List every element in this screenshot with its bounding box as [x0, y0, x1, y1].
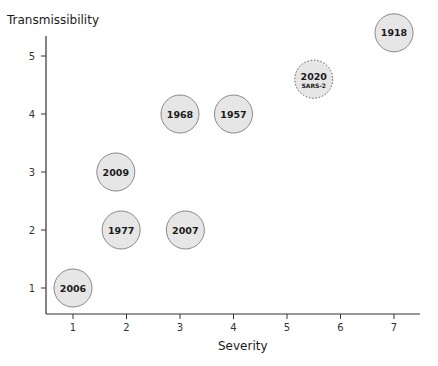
- bubble-2020: 2020SARS-2: [295, 60, 333, 98]
- x-tick-label: 4: [230, 322, 236, 333]
- bubble-year-label: 1957: [220, 109, 246, 120]
- x-tick-label: 1: [70, 322, 76, 333]
- bubble-1957: 1957: [215, 95, 253, 133]
- y-tick-label: 4: [29, 109, 35, 120]
- bubble-year-label: 2006: [60, 283, 87, 294]
- x-tick-label: 3: [177, 322, 183, 333]
- x-axis-title: Severity: [218, 339, 268, 353]
- scatter-chart: Transmissibility 12345 1234567 Severity …: [0, 0, 438, 366]
- x-tick-label: 6: [337, 322, 343, 333]
- x-tick-label: 7: [391, 322, 397, 333]
- bubble-year-label: 1918: [381, 27, 408, 38]
- bubble-year-label: 2009: [103, 167, 129, 178]
- y-axis-title: Transmissibility: [6, 13, 99, 27]
- bubble-1918: 1918: [375, 14, 413, 52]
- x-axis-ticks: 1234567: [70, 314, 397, 333]
- x-tick-label: 2: [123, 322, 129, 333]
- bubble-1968: 1968: [161, 95, 199, 133]
- y-axis-ticks: 12345: [29, 51, 46, 294]
- bubble-2009: 2009: [97, 153, 135, 191]
- bubble-year-label: 1968: [167, 109, 194, 120]
- y-tick-label: 3: [29, 167, 35, 178]
- bubble-2006: 2006: [54, 269, 92, 307]
- x-tick-label: 5: [284, 322, 290, 333]
- bubble-sublabel: SARS-2: [301, 82, 326, 89]
- bubble-2007: 2007: [166, 211, 204, 249]
- bubble-year-label: 2007: [172, 225, 198, 236]
- bubble-1977: 1977: [102, 211, 140, 249]
- y-tick-label: 1: [29, 283, 35, 294]
- bubble-year-label: 1977: [108, 225, 134, 236]
- data-points: 19182020SARS-2196819572009197720072006: [54, 14, 413, 307]
- y-tick-label: 2: [29, 225, 35, 236]
- y-tick-label: 5: [29, 51, 35, 62]
- bubble-year-label: 2020: [301, 71, 328, 82]
